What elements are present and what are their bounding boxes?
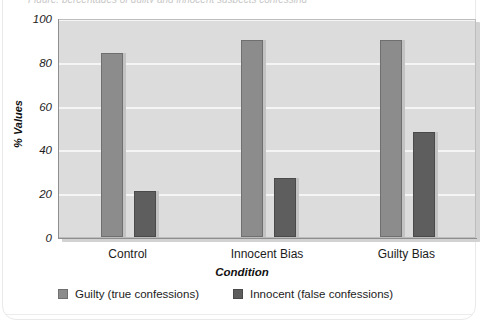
x-axis-label: Condition bbox=[0, 266, 484, 278]
legend-swatch-icon bbox=[233, 289, 243, 299]
bar-guilty-bias-series-0 bbox=[380, 40, 402, 237]
bar-innocent-bias-series-0 bbox=[241, 40, 263, 237]
y-axis-line bbox=[58, 19, 59, 239]
chart-figure: Figure: percentages of guilty and innoce… bbox=[0, 0, 484, 328]
y-axis-tick-label: 80 bbox=[6, 57, 52, 69]
legend-item: Guilty (true confessions) bbox=[58, 288, 199, 300]
y-axis-tick-label: 100 bbox=[6, 13, 52, 25]
bar-innocent-bias-series-1 bbox=[274, 178, 296, 237]
bar-control-series-1 bbox=[134, 191, 156, 237]
y-axis-tick-labels: 020406080100 bbox=[0, 0, 52, 328]
chart-legend: Guilty (true confessions)Innocent (false… bbox=[58, 288, 393, 300]
legend-label: Innocent (false confessions) bbox=[250, 288, 393, 300]
bars-layer bbox=[59, 20, 475, 237]
bar-guilty-bias-series-1 bbox=[413, 132, 435, 237]
x-axis-tick-label: Innocent Bias bbox=[231, 247, 304, 261]
y-axis-label: % Values bbox=[12, 100, 24, 148]
x-axis-tick-label: Control bbox=[108, 247, 147, 261]
x-axis-tick-label: Guilty Bias bbox=[378, 247, 435, 261]
legend-item: Innocent (false confessions) bbox=[233, 288, 393, 300]
x-axis-line bbox=[58, 238, 477, 239]
legend-label: Guilty (true confessions) bbox=[75, 288, 199, 300]
legend-swatch-icon bbox=[58, 289, 68, 299]
bar-control-series-0 bbox=[101, 53, 123, 237]
y-axis-tick-label: 0 bbox=[6, 232, 52, 244]
page-bottom-rule bbox=[6, 314, 472, 315]
cropped-caption-text: Figure: percentages of guilty and innoce… bbox=[28, 0, 448, 3]
plot-area bbox=[58, 19, 476, 238]
y-axis-tick-label: 20 bbox=[6, 188, 52, 200]
